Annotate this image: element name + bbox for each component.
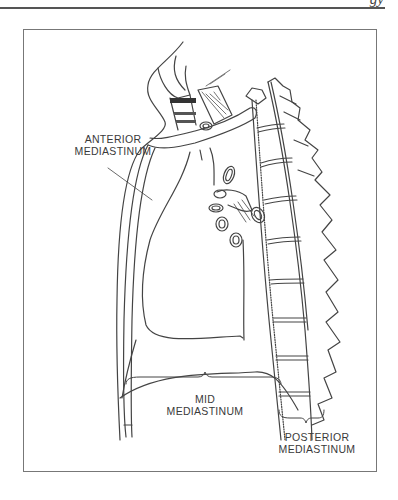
vertebral-column-anterior [252, 100, 281, 440]
label-line-2: MEDIASTINUM [150, 405, 260, 417]
anterior-mediastinum-label: ANTERIOR MEDIASTINUM [58, 133, 168, 157]
mid-mediastinum-brace [126, 372, 281, 384]
great-vessel [200, 122, 212, 130]
posterior-mediastinum-label: POSTERIOR MEDIASTINUM [262, 431, 372, 455]
label-line-1: ANTERIOR [58, 133, 168, 145]
label-line-1: MID [150, 393, 260, 405]
mediastinum-illustration [0, 0, 398, 500]
esophagus [198, 86, 232, 124]
label-line-2: MEDIASTINUM [262, 443, 372, 455]
posterior-mediastinum-brace [279, 410, 324, 423]
heart-contour [143, 152, 243, 339]
mid-mediastinum-label: MID MEDIASTINUM [150, 393, 260, 417]
vertebral-bodies [257, 124, 310, 396]
label-line-1: POSTERIOR [262, 431, 372, 443]
hilar-structures [209, 165, 267, 247]
vertebral-column-posterior [268, 82, 312, 440]
label-line-2: MEDIASTINUM [58, 145, 168, 157]
